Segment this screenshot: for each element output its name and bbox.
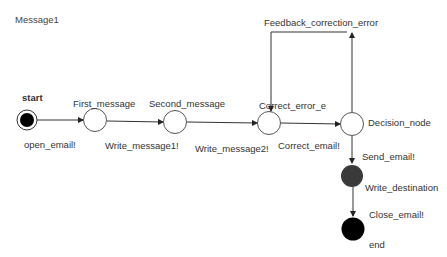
second-message-node[interactable]	[164, 111, 187, 134]
write-destination-label: Write_destination	[365, 183, 438, 193]
first-message-node[interactable]	[84, 109, 107, 132]
first-message-label: First_message	[73, 99, 135, 109]
correct-error-node[interactable]	[258, 112, 281, 135]
transition-write-message1	[107, 121, 163, 122]
decision-node-label: Decision_node	[368, 118, 431, 128]
transition-correct-email	[281, 123, 340, 124]
decision-node[interactable]	[341, 113, 364, 136]
close-email-label: Close_email!	[369, 210, 424, 220]
write-destination-node[interactable]	[341, 165, 363, 187]
open-email-label: open_email!	[24, 140, 76, 150]
diagram-title: Message1	[15, 15, 59, 25]
start-node[interactable]	[17, 110, 37, 130]
second-message-label: Second_message	[149, 99, 225, 109]
start-label: start	[22, 93, 43, 103]
correct-email-label: Correct_email!	[278, 141, 340, 151]
write-message1-label: Write_message1!	[105, 141, 179, 151]
send-email-label: Send_email!	[362, 152, 415, 162]
correct-error-label: Correct_error_e	[259, 101, 326, 111]
end-label: end	[369, 240, 385, 250]
transition-write-message2	[187, 122, 257, 123]
feedback-correction-error-label: Feedback_correction_error	[264, 18, 378, 28]
write-message2-label: Write_message2!	[195, 144, 269, 154]
end-node[interactable]	[342, 218, 365, 241]
